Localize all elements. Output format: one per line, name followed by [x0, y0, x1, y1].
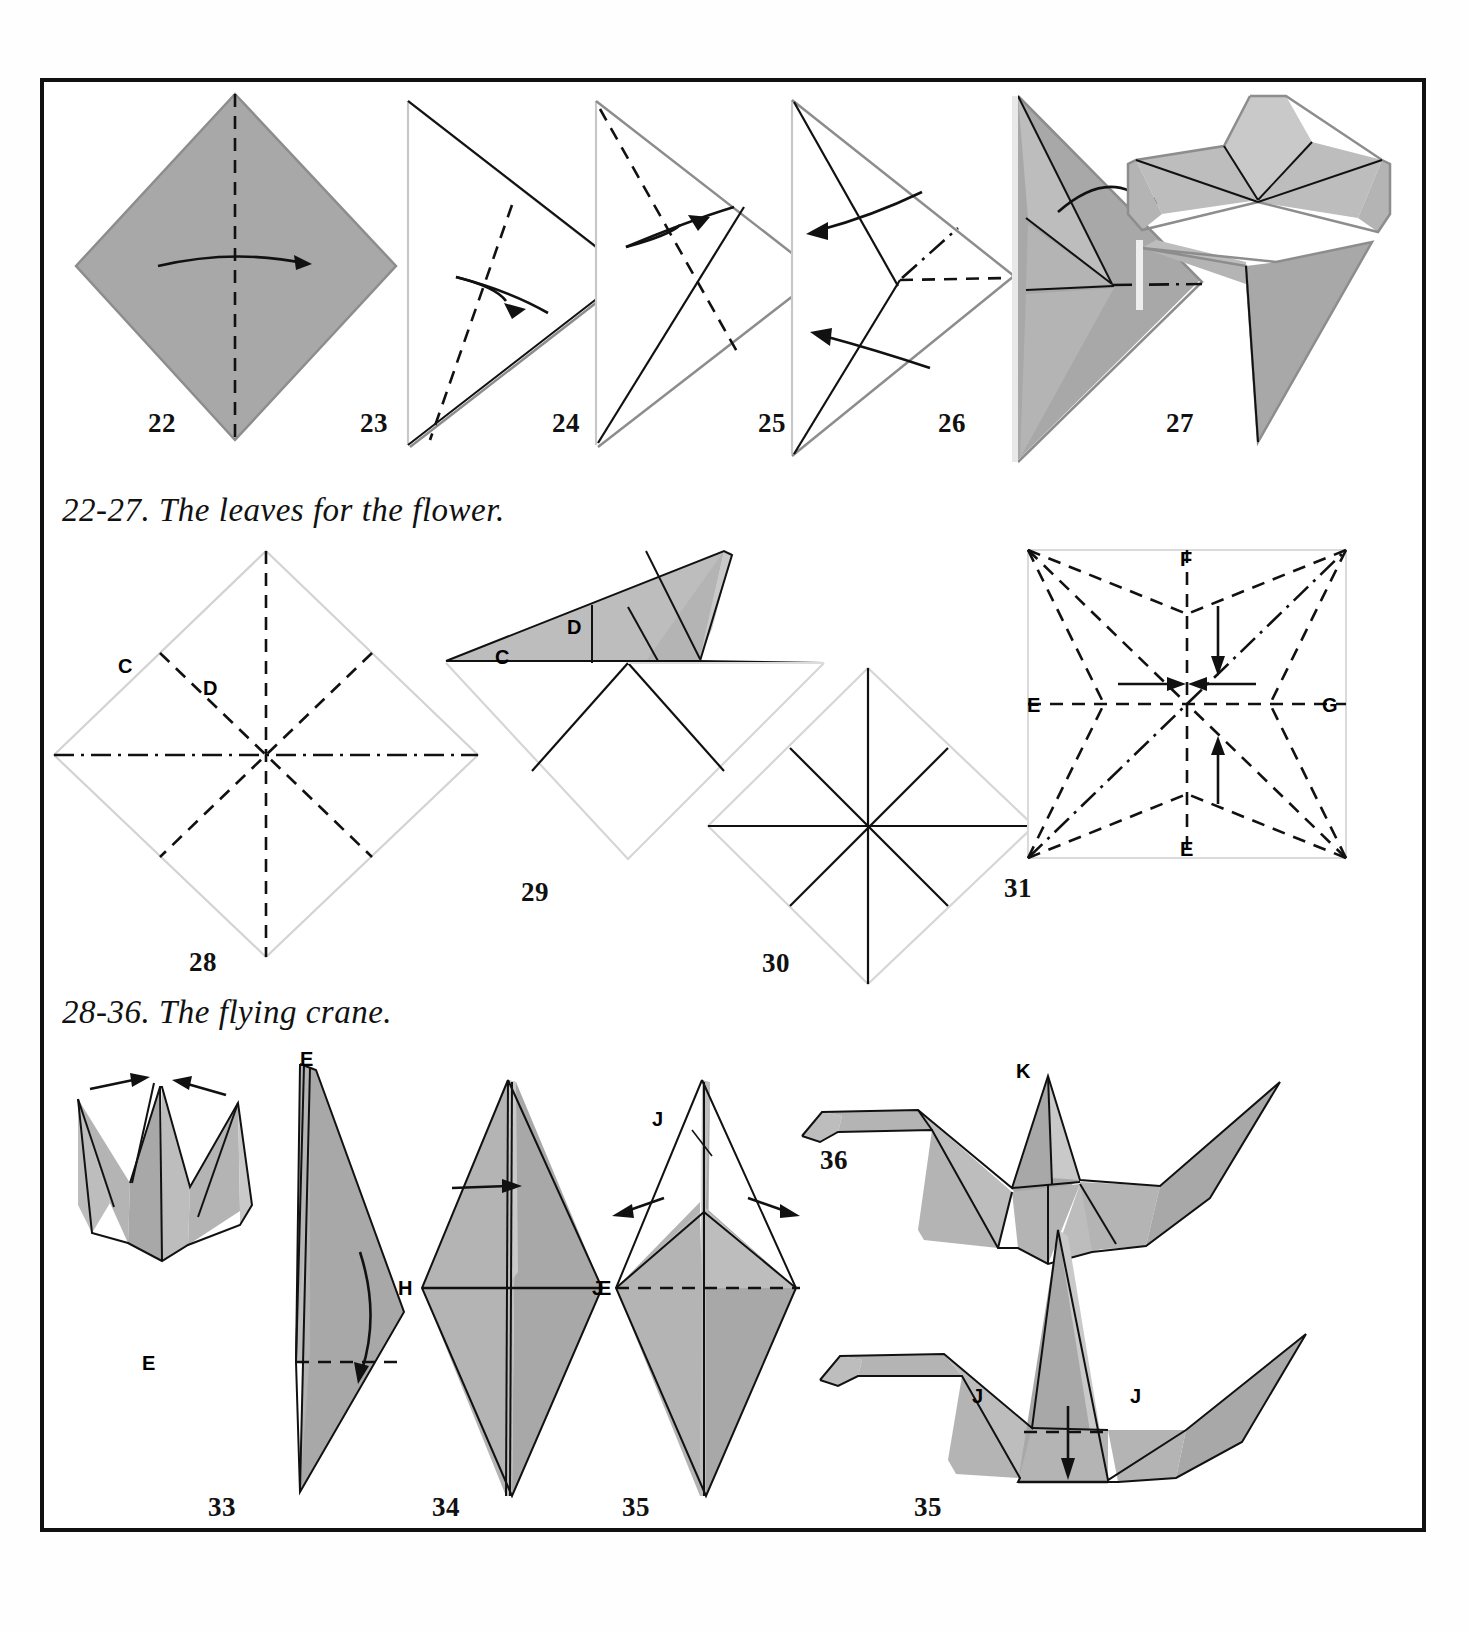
- figure-34: [600, 1072, 810, 1502]
- figure-35-label-j-left: J: [972, 1385, 983, 1408]
- figure-28: [48, 543, 488, 963]
- figure-29-label-d: D: [567, 616, 581, 639]
- figure-number-25: 25: [758, 408, 786, 439]
- figure-35: [806, 1230, 1326, 1500]
- figure-number-28: 28: [189, 947, 217, 978]
- figure-number-35: 35: [914, 1492, 942, 1523]
- figure-29-label-c: C: [495, 646, 509, 669]
- figure-31: [1022, 544, 1352, 864]
- figure-number-33: 34: [432, 1492, 460, 1523]
- figure-number-36: 36: [820, 1145, 848, 1176]
- figure-number-26: 26: [938, 408, 966, 439]
- figure-33: [412, 1072, 612, 1502]
- figure-number-32: 33: [208, 1492, 236, 1523]
- figure-32-label-e-left: E: [142, 1352, 155, 1375]
- figure-number-27: 27: [1166, 408, 1194, 439]
- figure-28-label-c: C: [118, 655, 132, 678]
- figure-31-label-e-top: F: [1180, 548, 1192, 571]
- figure-number-30: 30: [762, 948, 790, 979]
- figure-36-label-k: K: [1016, 1060, 1030, 1083]
- figure-32-label-f: E: [300, 1048, 313, 1071]
- figure-31-label-e-right: G: [1322, 694, 1338, 717]
- figure-30: [700, 662, 1040, 992]
- figure-28-label-d: D: [203, 677, 217, 700]
- figure-number-31: 31: [1004, 873, 1032, 904]
- figure-number-22: 22: [148, 408, 176, 439]
- figure-32: [238, 1052, 408, 1492]
- figure-34-label-h: J: [652, 1108, 663, 1131]
- figure-32-bird-base-photo: [62, 1065, 262, 1275]
- origami-instruction-page: 22 23 24 25: [0, 0, 1469, 1631]
- figure-33-label-e-left: H: [398, 1277, 412, 1300]
- caption-crane: 28-36. The flying crane.: [62, 994, 392, 1031]
- figure-34-label-e-left: J: [592, 1277, 603, 1300]
- caption-leaves: 22-27. The leaves for the flower.: [62, 492, 505, 529]
- figure-35-label-j-right: J: [1130, 1385, 1141, 1408]
- figure-27: [1126, 90, 1396, 460]
- figure-number-34: 35: [622, 1492, 650, 1523]
- figure-31-label-e-bottom: E: [1180, 838, 1193, 861]
- figure-31-label-e-left: E: [1027, 694, 1040, 717]
- figure-number-23: 23: [360, 408, 388, 439]
- figure-number-29: 29: [521, 877, 549, 908]
- figure-22: [70, 88, 400, 448]
- figure-number-24: 24: [552, 408, 580, 439]
